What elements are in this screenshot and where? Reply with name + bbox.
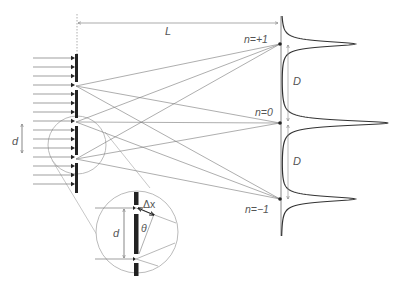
diffraction-diagram: L d D D n=+1 n=0 n=−1 bbox=[0, 0, 403, 291]
incident-rays bbox=[33, 58, 72, 184]
separation-label-top: D bbox=[293, 75, 301, 87]
inset-period-label: d bbox=[113, 227, 120, 239]
inset-magnifier bbox=[95, 191, 178, 276]
grating bbox=[71, 54, 78, 193]
order-label-zero: n=0 bbox=[255, 106, 273, 118]
diffracted-rays bbox=[76, 44, 280, 199]
period-label: d bbox=[12, 135, 19, 147]
angle-label: θ bbox=[141, 222, 147, 234]
order-label-plus1: n=+1 bbox=[244, 33, 268, 45]
path-difference-label: Δx bbox=[143, 198, 156, 210]
intensity-profile bbox=[282, 16, 389, 236]
separation-label-bottom: D bbox=[293, 155, 301, 167]
order-label-minus1: n=−1 bbox=[245, 203, 269, 215]
distance-label: L bbox=[165, 25, 171, 37]
